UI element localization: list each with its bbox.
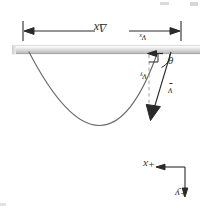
vx-label: vₓ bbox=[139, 33, 146, 43]
horizontal-rod bbox=[12, 45, 200, 54]
vector-overbar: v bbox=[168, 86, 172, 96]
scan-artifact bbox=[160, 2, 169, 5]
delta-x-label: Δx bbox=[94, 22, 106, 34]
vy-label: vᵧ bbox=[140, 72, 147, 82]
scan-artifact bbox=[0, 203, 6, 206]
axis-y-label: +y bbox=[175, 188, 187, 199]
resultant-velocity-label: v bbox=[168, 86, 172, 96]
axis-x-label: +x bbox=[143, 159, 155, 170]
projectile-motion-figure: Δx vₓ vᵧ θ v +x +y bbox=[0, 0, 205, 208]
trajectory-curve bbox=[29, 52, 157, 126]
scan-artifact bbox=[190, 2, 198, 6]
theta-label: θ bbox=[168, 55, 173, 66]
